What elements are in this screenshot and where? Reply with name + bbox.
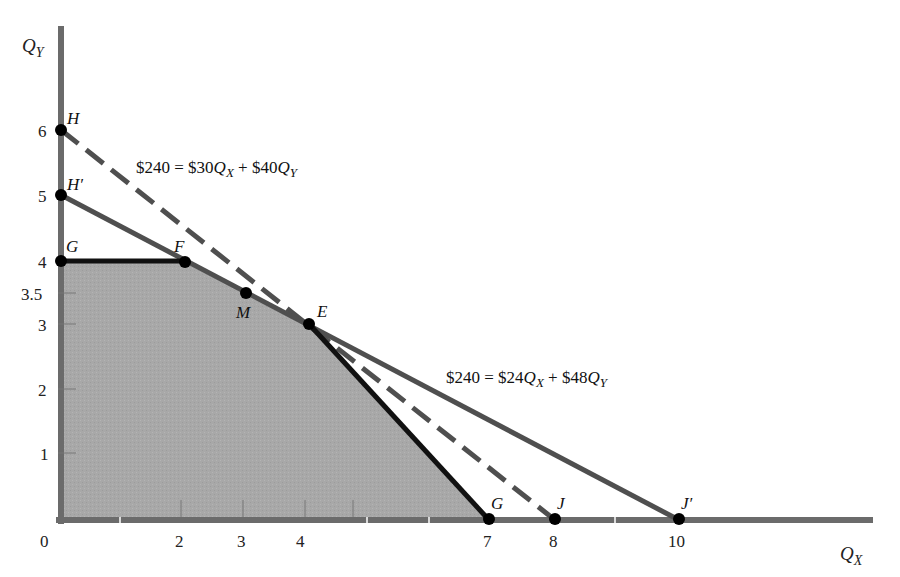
point-J bbox=[549, 513, 561, 525]
y-tick-3: 3 bbox=[38, 316, 47, 335]
label-E: E bbox=[316, 302, 328, 321]
label-F: F bbox=[173, 237, 185, 256]
label-G-bottom: G bbox=[491, 494, 503, 513]
x-tick-2: 2 bbox=[175, 532, 184, 551]
y-axis-title: QY bbox=[22, 35, 46, 60]
x-tick-3: 3 bbox=[237, 532, 246, 551]
y-tick-6: 6 bbox=[38, 122, 47, 141]
x-tick-8: 8 bbox=[549, 532, 558, 551]
x-tick-7: 7 bbox=[483, 532, 492, 551]
point-J-prime bbox=[673, 513, 685, 525]
point-E bbox=[303, 318, 315, 330]
y-tick-1: 1 bbox=[40, 445, 49, 464]
chart: 6 5 4 3.5 3 2 1 0 2 3 4 7 8 10 QY QX H H… bbox=[0, 0, 900, 577]
point-M bbox=[240, 287, 252, 299]
equation-dashed-line: $240 = $30QX + $40QY bbox=[136, 158, 299, 180]
label-M: M bbox=[235, 303, 251, 322]
point-H bbox=[55, 124, 67, 136]
x-axis-title: QX bbox=[840, 543, 863, 568]
origin-label: 0 bbox=[40, 532, 49, 551]
label-J: J bbox=[557, 494, 566, 513]
equation-solid-line: $240 = $24QX + $48QY bbox=[446, 368, 609, 390]
y-tick-4: 4 bbox=[38, 253, 47, 272]
label-H-prime: H′ bbox=[66, 175, 83, 194]
point-H-prime bbox=[55, 189, 67, 201]
point-F bbox=[179, 256, 191, 268]
point-G-top bbox=[55, 255, 67, 267]
point-G-bottom bbox=[483, 513, 495, 525]
y-tick-3.5: 3.5 bbox=[21, 285, 42, 304]
label-G-top: G bbox=[66, 237, 78, 256]
label-J-prime: J′ bbox=[681, 494, 693, 513]
x-tick-10: 10 bbox=[668, 532, 685, 551]
x-tick-4: 4 bbox=[296, 532, 305, 551]
y-tick-5: 5 bbox=[38, 187, 47, 206]
y-tick-2: 2 bbox=[38, 381, 47, 400]
label-H: H bbox=[66, 109, 81, 128]
